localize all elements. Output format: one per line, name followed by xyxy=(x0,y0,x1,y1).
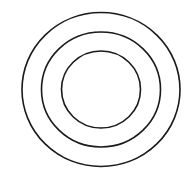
inner-ring xyxy=(62,51,141,128)
middle-ring xyxy=(42,32,161,147)
outer-ring xyxy=(22,13,180,167)
concentric-circles-diagram xyxy=(0,0,190,176)
diagram-canvas xyxy=(0,0,190,176)
